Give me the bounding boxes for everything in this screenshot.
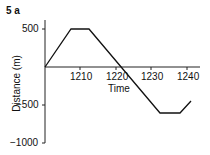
- y-axis-label: Distance (m): [11, 54, 22, 114]
- x-tick-1240: 1240: [177, 72, 199, 82]
- x-tick-1210: 1210: [70, 72, 92, 82]
- x-axis-label: Time: [108, 84, 130, 94]
- y-tick-minus-1000: −1000: [10, 138, 38, 148]
- x-tick-1230: 1230: [141, 72, 163, 82]
- x-tick-1220: 1220: [106, 72, 128, 82]
- y-tick-500: 500: [22, 24, 39, 34]
